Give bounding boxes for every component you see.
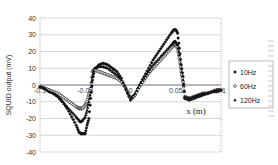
legend: 10Hz60Hz120Hz bbox=[229, 61, 273, 108]
triangle-marker bbox=[85, 108, 88, 111]
series-10Hz bbox=[38, 28, 223, 135]
chart: 403020100-10-20-30-40 -0.1-0.0500.050.1 … bbox=[0, 0, 278, 165]
series-60Hz bbox=[39, 43, 223, 109]
y-tick-label: 30 bbox=[28, 31, 36, 38]
diamond-marker bbox=[85, 126, 89, 130]
x-tick-label: 0.05 bbox=[169, 87, 183, 94]
y-axis-title: SQUID output (mV) bbox=[5, 55, 13, 116]
cropped-side-text bbox=[268, 40, 274, 120]
y-tick-label: 20 bbox=[28, 48, 36, 55]
x-axis-ticks: -0.1-0.0500.050.1 bbox=[34, 87, 226, 94]
x-axis-title: x (m) bbox=[186, 106, 206, 116]
diamond-marker bbox=[176, 36, 180, 40]
legend-label: 60Hz bbox=[240, 83, 257, 90]
y-tick-label: -40 bbox=[26, 149, 36, 156]
legend-label: 10Hz bbox=[240, 69, 257, 76]
y-tick-label: -30 bbox=[26, 132, 36, 139]
y-axis-ticks: 403020100-10-20-30-40 bbox=[26, 15, 36, 156]
data-series bbox=[38, 28, 223, 135]
y-tick-label: -20 bbox=[26, 115, 36, 122]
y-tick-label: -10 bbox=[26, 98, 36, 105]
y-tick-label: 10 bbox=[28, 65, 36, 72]
y-tick-label: 40 bbox=[28, 15, 36, 22]
circle-marker bbox=[234, 85, 237, 88]
legend-label: 120Hz bbox=[240, 97, 261, 104]
